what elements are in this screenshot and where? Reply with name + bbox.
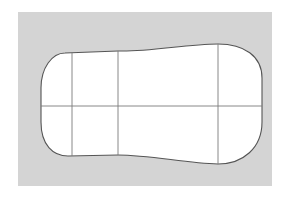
figure-canvas (0, 0, 285, 203)
curved-blob-outline (41, 44, 262, 164)
figure-svg (0, 0, 285, 203)
